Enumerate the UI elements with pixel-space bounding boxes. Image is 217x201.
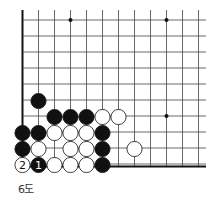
white-stone <box>79 157 94 172</box>
white-stone <box>47 157 62 172</box>
white-stone <box>79 141 94 156</box>
go-board: 21 <box>0 0 217 201</box>
white-stone <box>63 157 78 172</box>
black-stone <box>47 109 62 124</box>
black-stone <box>15 141 30 156</box>
white-stone <box>63 125 78 140</box>
star-point-icon <box>165 18 169 22</box>
white-stone <box>79 125 94 140</box>
white-stone: 2 <box>15 157 30 172</box>
white-stone <box>31 141 46 156</box>
black-stone <box>79 109 94 124</box>
diagram-caption: 6도 <box>18 180 34 196</box>
white-stone <box>47 125 62 140</box>
board-grid <box>22 10 207 167</box>
black-stone <box>31 125 46 140</box>
star-point-icon <box>69 18 73 22</box>
white-stone <box>127 141 142 156</box>
white-stone <box>63 141 78 156</box>
black-stone <box>63 109 78 124</box>
star-point-icon <box>165 114 169 118</box>
black-stone <box>95 157 110 172</box>
black-stone <box>15 125 30 140</box>
move-number: 2 <box>19 159 26 172</box>
black-stone <box>95 141 110 156</box>
move-number: 1 <box>35 159 42 172</box>
white-stone <box>95 109 110 124</box>
white-stone <box>111 109 126 124</box>
black-stone <box>31 93 46 108</box>
black-stone <box>95 125 110 140</box>
black-stone: 1 <box>31 157 46 172</box>
stones-layer: 21 <box>15 93 142 172</box>
